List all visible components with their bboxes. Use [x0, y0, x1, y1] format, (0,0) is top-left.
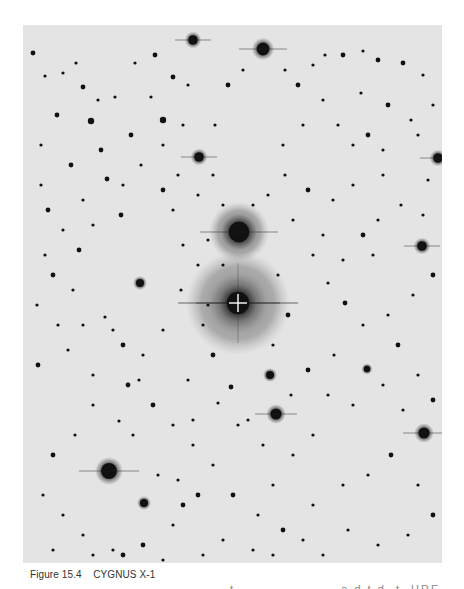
star [301, 123, 304, 126]
star [153, 53, 158, 58]
star [129, 133, 134, 138]
star [266, 193, 269, 196]
bright-star [140, 499, 148, 507]
star [323, 53, 326, 56]
star [171, 423, 174, 426]
star [91, 553, 94, 556]
star [321, 98, 324, 101]
star [186, 378, 189, 381]
star [231, 493, 236, 498]
star [271, 483, 274, 486]
star [171, 523, 174, 526]
star [326, 393, 329, 396]
star [191, 443, 194, 446]
star [141, 543, 146, 548]
clipped-text-line: t a d t d t HRE [230, 583, 464, 589]
star [69, 163, 74, 168]
star [113, 95, 116, 98]
star [271, 553, 274, 556]
star [291, 453, 294, 456]
star [341, 258, 344, 261]
star [251, 548, 254, 551]
star [71, 288, 74, 291]
star [321, 553, 324, 556]
star [351, 143, 354, 146]
star [91, 223, 94, 226]
star [281, 143, 284, 146]
star [271, 343, 274, 346]
star [386, 313, 389, 316]
star [399, 203, 402, 206]
star [61, 513, 64, 516]
star [88, 118, 94, 124]
star [36, 363, 41, 368]
star [343, 301, 348, 306]
star [221, 263, 224, 266]
star [111, 548, 114, 551]
star [359, 91, 362, 94]
star [160, 117, 166, 123]
star [126, 383, 131, 388]
star [361, 323, 364, 326]
star [246, 418, 249, 421]
star [81, 323, 84, 326]
star [171, 75, 176, 80]
star [81, 85, 86, 90]
star [351, 183, 354, 186]
star [119, 213, 124, 218]
star [366, 473, 369, 476]
star [186, 83, 189, 86]
star [161, 143, 164, 146]
star [251, 203, 254, 206]
star [201, 553, 204, 556]
star [311, 63, 314, 66]
star [396, 343, 401, 348]
star [176, 173, 179, 176]
star [416, 373, 419, 376]
star [221, 538, 224, 541]
star [406, 533, 409, 536]
star [306, 368, 311, 373]
star [117, 419, 120, 422]
star [311, 503, 314, 506]
star [181, 503, 186, 508]
star [39, 143, 42, 146]
star [376, 218, 379, 221]
star [213, 123, 216, 126]
star [161, 188, 166, 193]
star [341, 53, 346, 58]
star [179, 288, 182, 291]
star [341, 483, 344, 486]
bright-star [266, 371, 274, 379]
star [366, 133, 371, 138]
star [389, 453, 394, 458]
star [74, 61, 77, 64]
star [31, 51, 36, 56]
star [416, 133, 419, 136]
bright-star [136, 279, 144, 287]
star [103, 315, 106, 318]
star [201, 323, 204, 326]
star [81, 198, 84, 201]
star [426, 178, 429, 181]
star [99, 148, 104, 153]
star [96, 98, 99, 101]
star [431, 103, 434, 106]
star [181, 243, 184, 246]
star [276, 273, 279, 276]
star [381, 383, 384, 386]
star [161, 328, 164, 331]
star [105, 177, 110, 182]
star [306, 188, 311, 193]
star [283, 173, 286, 176]
star [35, 303, 38, 306]
star [421, 73, 424, 76]
star [371, 253, 374, 256]
star [191, 418, 194, 421]
star [211, 173, 214, 176]
star [46, 208, 51, 213]
star [66, 348, 69, 351]
star [376, 58, 381, 63]
star [416, 483, 419, 486]
star [351, 403, 354, 406]
